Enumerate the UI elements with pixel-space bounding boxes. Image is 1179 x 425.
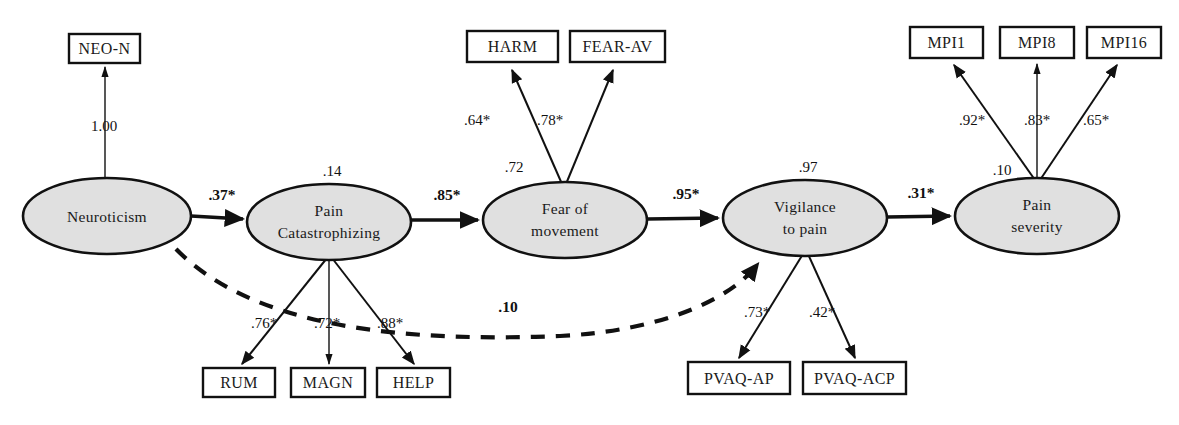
coef-magn-loading: .72* bbox=[314, 315, 340, 331]
latent-neuroticism[interactable]: Neuroticism bbox=[23, 178, 191, 254]
latent-variables-group: Neuroticism Pain Catastrophizing Fear of… bbox=[23, 178, 1119, 260]
coef-harm-loading: .64* bbox=[464, 112, 490, 128]
path-neuroticism-to-pain-catastrophizing bbox=[191, 216, 243, 219]
latent-pain-catastrophizing-shape bbox=[247, 184, 411, 260]
coef-catastrophizing-to-fear: .85* bbox=[433, 186, 460, 203]
indicator-neo-n-label: NEO-N bbox=[79, 40, 131, 57]
coef-mpi8-loading: .83* bbox=[1024, 112, 1050, 128]
coef-vigilance-to-severity: .31* bbox=[907, 184, 934, 201]
sem-diagram-canvas: Neuroticism Pain Catastrophizing Fear of… bbox=[0, 0, 1179, 425]
loading-pain-catastrophizing-to-help bbox=[332, 258, 414, 364]
coef-help-loading: .88* bbox=[377, 315, 403, 331]
latent-vigilance-to-pain-shape bbox=[723, 180, 887, 256]
coef-vigilance-disturbance: .97 bbox=[799, 159, 818, 175]
indicator-rum[interactable]: RUM bbox=[203, 368, 275, 397]
indicator-magn-label: MAGN bbox=[303, 374, 354, 391]
latent-pain-catastrophizing-label-line1: Pain bbox=[315, 202, 344, 219]
coef-mpi16-loading: .65* bbox=[1083, 112, 1109, 128]
indicator-harm[interactable]: HARM bbox=[467, 31, 558, 62]
indicator-help-label: HELP bbox=[393, 374, 435, 391]
coef-catastrophizing-disturbance: .14 bbox=[323, 163, 342, 179]
indicator-rum-label: RUM bbox=[220, 374, 258, 391]
coef-neuroticism-to-catastrophizing: .37* bbox=[208, 186, 235, 203]
indicator-fear-av[interactable]: FEAR-AV bbox=[570, 31, 665, 62]
latent-vigilance-to-pain[interactable]: Vigilance to pain bbox=[723, 180, 887, 256]
indicator-magn[interactable]: MAGN bbox=[291, 368, 365, 397]
indicator-mpi1[interactable]: MPI1 bbox=[910, 27, 983, 58]
coef-severity-disturbance: .10 bbox=[993, 162, 1012, 178]
latent-pain-severity-shape bbox=[955, 178, 1119, 254]
indicator-neo-n[interactable]: NEO-N bbox=[69, 34, 140, 63]
sem-diagram-svg: Neuroticism Pain Catastrophizing Fear of… bbox=[0, 0, 1179, 425]
indicator-mpi1-label: MPI1 bbox=[927, 34, 965, 51]
coef-pvaq-acp-loading: .42* bbox=[809, 304, 835, 320]
indicator-harm-label: HARM bbox=[488, 38, 538, 55]
indicator-mpi8[interactable]: MPI8 bbox=[1000, 27, 1074, 58]
latent-neuroticism-label-line1: Neuroticism bbox=[67, 208, 147, 225]
indicator-mpi8-label: MPI8 bbox=[1018, 34, 1056, 51]
latent-pain-catastrophizing-label-line2: Catastrophizing bbox=[278, 224, 381, 241]
latent-pain-severity-label-line1: Pain bbox=[1023, 196, 1052, 213]
latent-fear-of-movement-shape bbox=[483, 182, 647, 258]
loading-pain-catastrophizing-to-rum bbox=[242, 258, 327, 364]
latent-fear-of-movement[interactable]: Fear of movement bbox=[483, 182, 647, 258]
coef-fear-to-vigilance: .95* bbox=[672, 185, 699, 202]
coef-fearav-loading: .78* bbox=[537, 112, 563, 128]
indicator-pvaq-acp-label: PVAQ-ACP bbox=[814, 370, 895, 387]
latent-vigilance-to-pain-label-line2: to pain bbox=[783, 220, 828, 237]
indicator-pvaq-acp[interactable]: PVAQ-ACP bbox=[803, 362, 906, 394]
coef-neuroticism-to-vigilance-dashed: .10 bbox=[498, 298, 518, 315]
coef-pvaq-ap-loading: .73* bbox=[744, 304, 770, 320]
indicator-fear-av-label: FEAR-AV bbox=[582, 38, 652, 55]
indicator-pvaq-ap-label: PVAQ-AP bbox=[704, 370, 774, 387]
loading-fear-of-movement-to-fear-av bbox=[566, 70, 613, 184]
latent-pain-catastrophizing[interactable]: Pain Catastrophizing bbox=[247, 184, 411, 260]
indicator-help[interactable]: HELP bbox=[377, 368, 450, 397]
coef-fear-disturbance: .72 bbox=[505, 159, 524, 175]
latent-fear-of-movement-label-line1: Fear of bbox=[542, 200, 589, 217]
latent-vigilance-to-pain-label-line1: Vigilance bbox=[774, 198, 836, 215]
latent-pain-severity[interactable]: Pain severity bbox=[955, 178, 1119, 254]
coef-rum-loading: .76* bbox=[251, 315, 277, 331]
indicator-pvaq-ap[interactable]: PVAQ-AP bbox=[688, 362, 790, 394]
path-fear-of-movement-to-vigilance-to-pain bbox=[647, 218, 718, 219]
coef-mpi1-loading: .92* bbox=[959, 112, 985, 128]
latent-fear-of-movement-label-line2: movement bbox=[531, 222, 599, 239]
path-vigilance-to-pain-to-pain-severity bbox=[887, 216, 950, 217]
latent-pain-severity-label-line2: severity bbox=[1011, 218, 1062, 235]
indicator-mpi16-label: MPI16 bbox=[1101, 34, 1147, 51]
coef-neon-loading: 1.00 bbox=[91, 118, 117, 134]
indicator-mpi16[interactable]: MPI16 bbox=[1087, 27, 1161, 58]
